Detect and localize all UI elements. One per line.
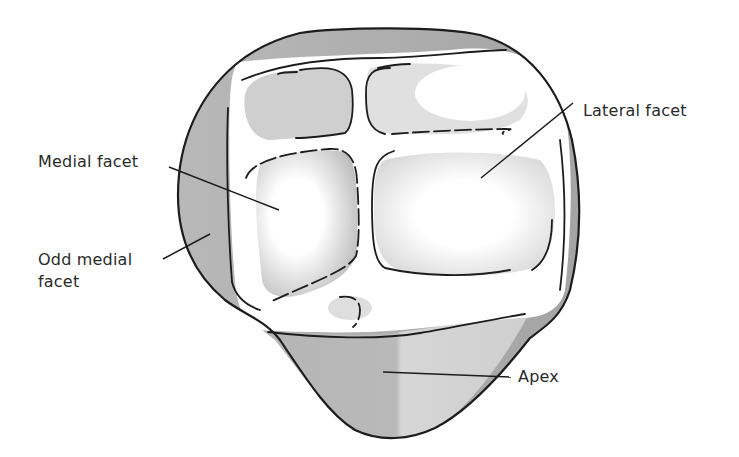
label-medial-facet: Medial facet	[38, 152, 138, 172]
label-odd-medial-facet-line2: facet	[38, 272, 79, 292]
lateral-facet-region	[372, 151, 555, 275]
superior-lateral-quadrant	[366, 64, 528, 135]
label-odd-medial-facet-line1: Odd medial	[38, 250, 132, 270]
label-lateral-facet: Lateral facet	[583, 101, 687, 121]
superior-medial-quadrant	[244, 68, 352, 140]
patella-diagram	[0, 0, 739, 457]
label-apex: Apex	[518, 367, 559, 387]
